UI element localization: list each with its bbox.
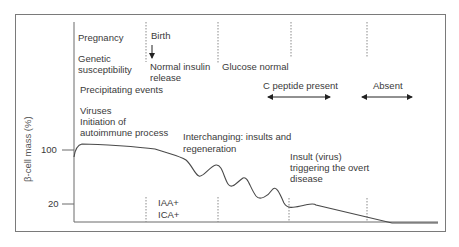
y-axis-label: β-cell mass (%) <box>22 116 33 182</box>
beta-cell-mass-curve <box>74 144 438 223</box>
y-tick-label-100: 100 <box>41 144 57 155</box>
c-peptide-label: C peptide present <box>263 80 338 91</box>
normal-insulin-label-line1: Normal insulin <box>150 61 210 72</box>
interchanging-label-line1: Interchanging: insults and <box>183 131 291 142</box>
y-tick-label-20: 20 <box>48 198 59 209</box>
glucose-normal-label: Glucose normal <box>222 61 289 72</box>
genetic-label-line2: susceptibility <box>78 64 132 75</box>
absent-label: Absent <box>373 80 403 91</box>
birth-label: Birth <box>151 30 171 41</box>
insult-label-line3: disease <box>290 173 323 184</box>
iaa-label: IAA+ <box>158 197 179 208</box>
genetic-label-line1: Genetic <box>78 53 111 64</box>
interchanging-label-line2: regeneration <box>183 143 236 154</box>
precipitating-events-label: Precipitating events <box>80 84 163 95</box>
ica-label: ICA+ <box>158 209 179 220</box>
pregnancy-label: Pregnancy <box>78 32 123 43</box>
initiation-label-line2: autoimmune process <box>80 127 168 138</box>
normal-insulin-label-line2: release <box>150 72 181 83</box>
stage-dividers <box>146 22 367 222</box>
insult-label-line1: Insult (virus) <box>290 151 342 162</box>
beta-cell-mass-plot <box>0 0 459 247</box>
initiation-label-line1: Initiation of <box>80 116 126 127</box>
viruses-label: Viruses <box>80 105 112 116</box>
insult-label-line2: triggering the overt <box>290 162 369 173</box>
